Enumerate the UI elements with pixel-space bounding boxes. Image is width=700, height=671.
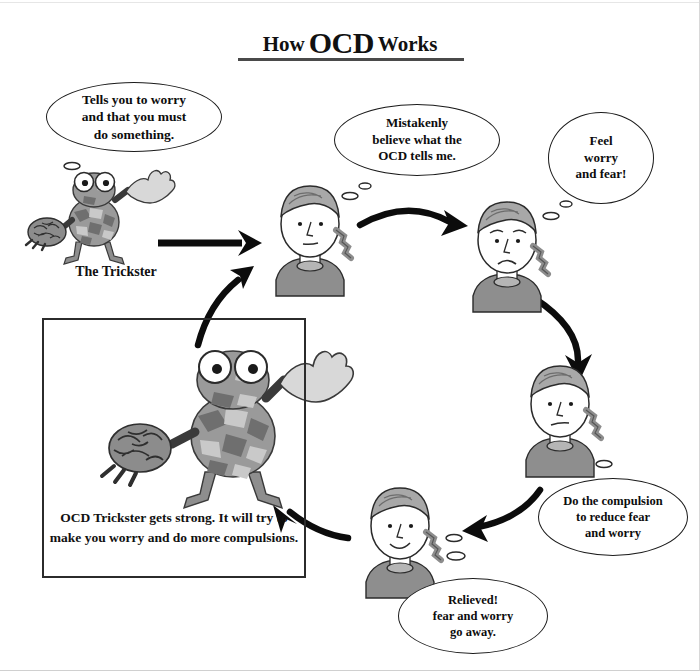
box-line: and do more compulsions.: [148, 530, 299, 545]
trickster-caption: The Trickster: [46, 264, 186, 280]
bubble-line: OCD tells me.: [372, 148, 462, 165]
bubble-line: fear and worry: [433, 608, 513, 624]
bubble-line: Feel: [576, 133, 627, 150]
thought-dot-4: [560, 201, 572, 207]
bubble-fear-thought: Feel worry and fear!: [548, 112, 654, 204]
ocd-cycle-diagram: HowOCDWorks: [0, 0, 700, 671]
trickster-small-figure: [20, 160, 170, 270]
brain-prop: [26, 218, 66, 250]
thought-dot-small: [64, 162, 80, 169]
box-line: OCD Trickster gets strong.: [60, 510, 215, 525]
person-smiling: [366, 488, 441, 598]
thought-dot-2: [359, 183, 371, 189]
bubble-line: Do the compulsion: [563, 493, 662, 509]
bubble-line: Mistakenly: [372, 115, 462, 132]
thought-dot-1: [342, 192, 358, 199]
bubble-believe-thought: Mistakenly believe what the OCD tells me…: [334, 104, 500, 176]
person-believe-figure: [258, 178, 378, 296]
trickster-box-caption: OCD Trickster gets strong. It will try t…: [44, 508, 304, 549]
bubble-line: and fear!: [576, 166, 627, 183]
bubble-trickster-thought: Tells you to worry and that you must do …: [46, 82, 222, 152]
arrow-trickster-to-person: [158, 230, 262, 256]
person-slight-frown: [526, 366, 601, 477]
thought-dot-3: [543, 212, 559, 219]
bubble-line: go away.: [433, 624, 513, 640]
thought-dot-6: [446, 534, 462, 541]
creature-body: [26, 171, 175, 264]
thought-dot-7: [447, 552, 465, 560]
bubble-line: to reduce fear: [563, 509, 662, 525]
thought-dot-5: [596, 460, 612, 467]
bubble-line: and worry: [563, 525, 662, 541]
bubble-line: believe what the: [372, 132, 462, 149]
person-worried: [473, 202, 548, 312]
bubble-compulsion-thought: Do the compulsion to reduce fear and wor…: [538, 478, 688, 556]
bubble-line: worry: [576, 150, 627, 167]
bubble-line: do something.: [82, 126, 187, 143]
bubble-line: Relieved!: [433, 592, 513, 608]
person-neutral: [276, 186, 351, 296]
bubble-relieved-thought: Relieved! fear and worry go away.: [398, 578, 548, 654]
person-fear-figure: [455, 192, 575, 312]
person-compulsion-figure: [508, 352, 628, 477]
bubble-line: and that you must: [82, 108, 187, 125]
bubble-line: Tells you to worry: [82, 91, 187, 108]
